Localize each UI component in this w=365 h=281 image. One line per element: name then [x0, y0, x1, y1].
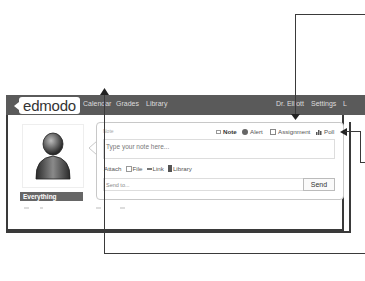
- filter-everything[interactable]: Everything: [20, 192, 83, 201]
- arrow-up-icon: [100, 88, 109, 95]
- note-input[interactable]: Type your note here...: [103, 139, 335, 159]
- callout-line: [295, 14, 365, 15]
- link-icon: [147, 168, 152, 170]
- nav-logout[interactable]: L: [343, 100, 347, 107]
- attach-link[interactable]: Link: [147, 165, 164, 172]
- frame-bottom: [6, 231, 351, 233]
- faint-item: [40, 207, 43, 209]
- callout-line: [345, 131, 361, 132]
- callout-line: [360, 162, 365, 163]
- edmodo-logo[interactable]: edmodo: [19, 97, 80, 114]
- arrow-left-icon: [340, 128, 347, 136]
- nav-calendar[interactable]: Calendar: [83, 100, 111, 107]
- faint-item: [24, 207, 29, 209]
- callout-line: [104, 94, 105, 254]
- attach-label: Attach: [104, 165, 122, 172]
- nav-settings[interactable]: Settings: [311, 100, 336, 107]
- faint-item: [96, 207, 101, 209]
- callout-line: [349, 122, 351, 232]
- callout-line: [360, 131, 361, 163]
- arrow-down-icon: [291, 114, 300, 120]
- tab-note[interactable]: Note: [216, 128, 237, 135]
- avatar[interactable]: [22, 124, 84, 188]
- user-silhouette-icon: [23, 125, 83, 187]
- nav-library[interactable]: Library: [146, 100, 167, 107]
- callout-line: [104, 253, 365, 254]
- alert-icon: [242, 129, 248, 135]
- attach-row: Attach File Link Library: [104, 165, 192, 172]
- nav-grades[interactable]: Grades: [116, 100, 139, 107]
- poll-icon: [316, 129, 322, 135]
- attach-file[interactable]: File: [126, 165, 143, 172]
- library-icon: [168, 165, 172, 172]
- tab-poll[interactable]: Poll: [316, 128, 334, 135]
- callout-line: [295, 14, 296, 118]
- faint-item: [120, 207, 125, 209]
- nav-user-name[interactable]: Dr. Elliott: [276, 100, 304, 107]
- file-icon: [126, 166, 132, 172]
- tab-alert[interactable]: Alert: [242, 128, 263, 135]
- attach-library[interactable]: Library: [168, 165, 192, 172]
- note-icon: [216, 130, 221, 134]
- send-button[interactable]: Send: [303, 178, 335, 191]
- send-to-input[interactable]: Send to...: [103, 178, 303, 191]
- tab-assignment[interactable]: Assignment: [270, 128, 310, 135]
- assignment-icon: [270, 129, 276, 135]
